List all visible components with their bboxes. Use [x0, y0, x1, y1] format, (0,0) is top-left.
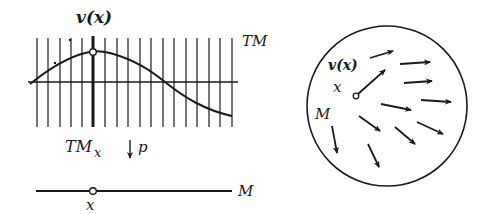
vector-label: v(x)	[76, 7, 112, 27]
tangent-bundle-panel: v(x) TM TM x p x M	[28, 7, 268, 214]
field-point-label: x	[333, 78, 342, 96]
projection-label: p	[138, 138, 148, 156]
section-point	[90, 49, 97, 56]
fiber-label: TM	[65, 137, 93, 156]
manifold-label: M	[237, 182, 254, 200]
fiber-subscript: x	[94, 145, 102, 160]
vector-field-panel: v(x) x M	[307, 26, 467, 186]
base-point-label: x	[86, 196, 95, 214]
field-vector-label: v(x)	[328, 57, 358, 73]
vector-field-diagram: v(x) TM TM x p x M v(x) x M	[0, 0, 488, 214]
field-base-point	[353, 93, 359, 99]
base-point	[90, 188, 97, 195]
field-manifold-label: M	[314, 105, 331, 123]
tangent-bundle-label: TM	[242, 32, 268, 50]
